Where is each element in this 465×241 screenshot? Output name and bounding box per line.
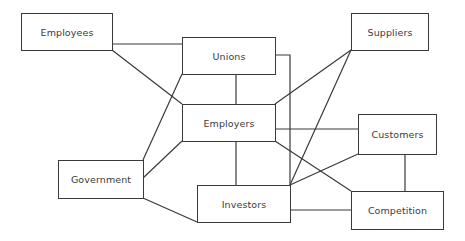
node-unions: Unions: [182, 37, 276, 75]
edge-employers-competition: [275, 141, 351, 191]
edge-investors-customers: [290, 154, 358, 185]
edge-government-investors: [143, 198, 197, 222]
node-government: Government: [58, 160, 144, 199]
edge-unions-investors: [275, 55, 290, 185]
edge-employers-suppliers: [275, 50, 351, 104]
node-employers: Employers: [182, 104, 276, 142]
node-employees: Employees: [21, 13, 113, 51]
node-suppliers: Suppliers: [351, 13, 429, 51]
node-customers: Customers: [358, 114, 437, 155]
edge-investors-suppliers: [290, 50, 351, 185]
node-competition: Competition: [351, 191, 444, 230]
node-investors: Investors: [197, 185, 291, 223]
